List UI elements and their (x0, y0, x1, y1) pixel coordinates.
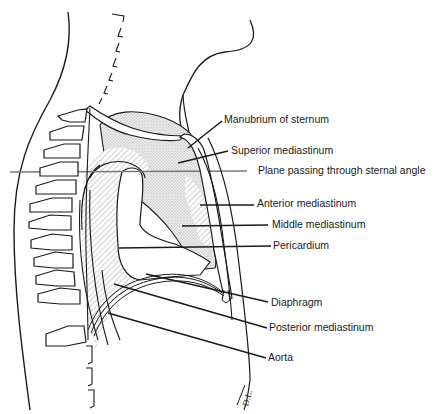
leader-middle (182, 225, 268, 226)
thoracic-vertebrae (29, 109, 87, 346)
cervical-vertebrae (99, 14, 124, 104)
label-anterior-mediastinum: Anterior mediastinum (257, 198, 356, 209)
label-diaphragm: Diaphragm (271, 297, 322, 308)
lumbar-vertebrae (86, 346, 94, 408)
label-middle-mediastinum: Middle mediastinum (272, 219, 365, 230)
chest-wall-outer (208, 138, 250, 410)
label-manubrium: Manubrium of sternum (224, 114, 329, 125)
label-aorta: Aorta (268, 352, 293, 363)
leader-manubrium (188, 121, 222, 148)
label-posterior-mediastinum: Posterior mediastinum (269, 322, 373, 333)
leader-aorta (108, 313, 266, 358)
label-pericardium: Pericardium (273, 240, 329, 251)
label-superior-mediastinum: Superior mediastinum (231, 145, 333, 156)
mediastinum-diagram (0, 0, 439, 414)
label-sternal-angle-plane: Plane passing through sternal angle (258, 165, 426, 176)
